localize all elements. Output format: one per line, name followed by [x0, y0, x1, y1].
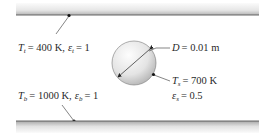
radiation-diagram: Tt= 400 K,εt= 1 D= 0.01 m Ts= 700 K εs= … [0, 0, 272, 137]
top-plate [16, 3, 259, 15]
bottom-plate-leader [62, 105, 74, 121]
bottom-plate [16, 121, 259, 133]
sphere-emissivity-label: εs= 0.5 [172, 90, 203, 103]
sphere-leader [154, 75, 170, 81]
sphere-temp-label: Ts= 700 K [172, 75, 217, 88]
top-plate-point [67, 14, 70, 17]
bottom-plate-label: Tb= 1000 K,εb= 1 [18, 90, 98, 103]
diameter-label: D= 0.01 m [171, 42, 219, 53]
top-plate-leader [56, 16, 69, 34]
sphere-surface-point [152, 73, 155, 76]
top-plate-label: Tt= 400 K,εt= 1 [18, 42, 90, 55]
